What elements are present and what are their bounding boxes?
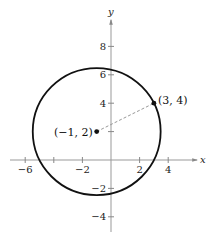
- y-tick-label: −4: [91, 211, 106, 222]
- x-tick-label: 4: [165, 164, 171, 175]
- x-axis-label: x: [200, 154, 206, 165]
- y-tick-label: −2: [91, 183, 106, 194]
- data-point: [152, 101, 157, 106]
- labels: xy−6−224864−2−4(−1, 2)(3, 4): [18, 6, 206, 222]
- circle-chart: xy−6−224864−2−4(−1, 2)(3, 4): [0, 0, 211, 243]
- shapes: [33, 68, 161, 195]
- y-tick-label: 4: [100, 98, 106, 109]
- y-tick-label: 6: [100, 69, 106, 80]
- y-tick-label: 8: [100, 41, 106, 52]
- y-axis-label: y: [107, 6, 114, 17]
- point-label-edge: (3, 4): [158, 94, 188, 107]
- point-label-center: (−1, 2): [54, 126, 93, 139]
- x-tick-label: −2: [75, 164, 90, 175]
- data-point: [94, 129, 99, 134]
- x-tick-label: 2: [136, 164, 142, 175]
- x-tick-label: −6: [18, 164, 33, 175]
